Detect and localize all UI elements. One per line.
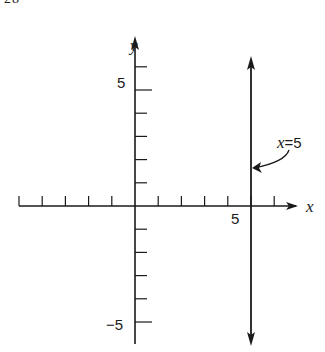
coordinate-plane [0,0,325,352]
y-axis-label: y [130,36,138,56]
equation-variable: x [277,133,285,152]
x-axis-label: x [306,197,314,217]
line-equation-label: x=5 [277,133,302,153]
equation-value: =5 [285,134,302,151]
y-tick-label-5: 5 [117,74,125,91]
x-tick-label-5: 5 [231,210,239,227]
y-axis [131,36,152,344]
x-axis [19,196,298,210]
y-tick-label-neg5: −5 [106,316,123,333]
line-annotation-arrow [252,150,289,173]
vertical-line-x-equals-5 [247,56,255,346]
